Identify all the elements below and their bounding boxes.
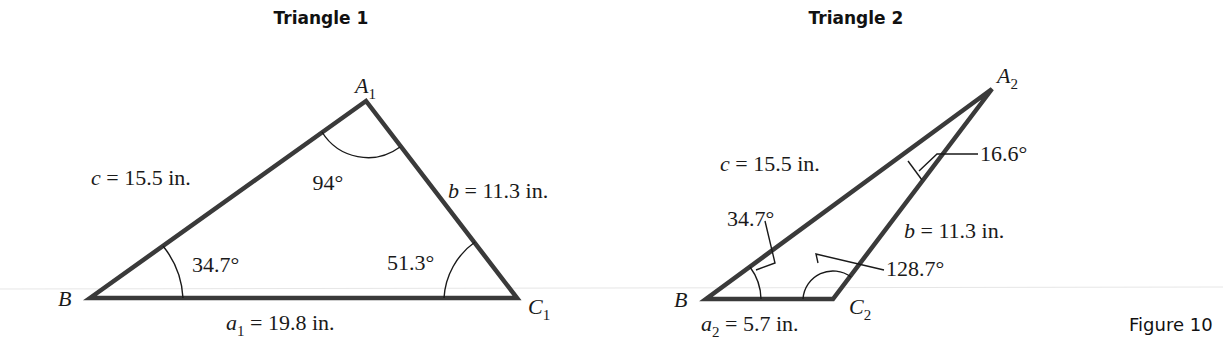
side-a2-label: a2 = 5.7 in. xyxy=(701,311,799,340)
triangle-1-title: Triangle 1 xyxy=(274,8,369,28)
side-a1-label: a1 = 19.8 in. xyxy=(226,310,335,339)
angle-a-label: 94° xyxy=(313,170,344,195)
figure-label: Figure 10 xyxy=(1129,314,1213,335)
vertex-b2-label: B xyxy=(674,287,687,312)
side-c2-label: c = 15.5 in. xyxy=(720,151,820,176)
angle-c2-leader xyxy=(816,254,884,270)
angle-arc-b xyxy=(163,246,183,298)
angle-arc-b2 xyxy=(750,267,761,299)
vertex-b-label: B xyxy=(58,286,71,311)
vertex-c2-label: C2 xyxy=(849,294,871,323)
vertex-c1-label: C1 xyxy=(528,294,550,323)
angle-arc-a xyxy=(322,132,400,158)
triangle-1: Triangle 1 A1 B C1 c = 15.5 in. b = 11.3… xyxy=(58,8,550,339)
side-b2-label: b = 11.3 in. xyxy=(904,218,1004,243)
angle-c2-label: 128.7° xyxy=(886,256,944,281)
triangle-2-shape xyxy=(706,89,992,299)
angle-arc-c xyxy=(444,242,475,298)
figure-canvas: Triangle 1 A1 B C1 c = 15.5 in. b = 11.3… xyxy=(0,0,1223,355)
side-c-label: c = 15.5 in. xyxy=(91,165,191,190)
angle-a2-label: 16.6° xyxy=(980,141,1027,166)
vertex-a2-label: A2 xyxy=(995,63,1018,92)
triangle-2: Triangle 2 A2 B C2 c = 15.5 in. b = 11.3… xyxy=(674,8,1027,340)
angle-b-label: 34.7° xyxy=(192,252,239,277)
angle-c-label: 51.3° xyxy=(387,250,434,275)
page-rule xyxy=(0,287,1223,289)
side-b-label: b = 11.3 in. xyxy=(448,178,548,203)
vertex-a1-label: A1 xyxy=(353,73,376,102)
angle-b2-label: 34.7° xyxy=(727,206,774,231)
angle-a2-leader xyxy=(919,154,978,171)
triangle-2-title: Triangle 2 xyxy=(809,8,904,28)
